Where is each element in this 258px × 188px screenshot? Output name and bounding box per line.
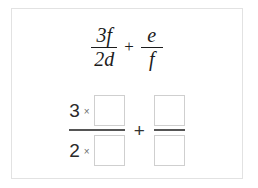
given-plus-operator: + [124, 37, 134, 58]
math-problem-card: 3f 2d + e f 3 × 2 × + [11, 8, 243, 179]
answer-fraction-1-denominator-coefficient: 2 [69, 141, 80, 160]
answer-fraction-1: 3 × 2 × [69, 93, 124, 167]
answer-fraction-1-denominator-row: 2 × [69, 133, 124, 167]
multiplication-icon: × [84, 107, 90, 117]
answer-fraction-1-numerator-input[interactable] [94, 95, 125, 126]
answer-fraction-1-denominator-input[interactable] [94, 135, 125, 166]
answer-fraction-2-denominator-row [154, 133, 185, 167]
answer-fraction-2-numerator-input[interactable] [154, 95, 185, 126]
given-fraction-2: e f [141, 25, 163, 70]
given-fraction-2-denominator: f [146, 49, 158, 70]
given-expression: 3f 2d + e f [12, 25, 242, 70]
given-fraction-1-numerator: 3f [93, 25, 115, 46]
answer-fraction-2-denominator-input[interactable] [154, 135, 185, 166]
answer-expression: 3 × 2 × + [12, 93, 242, 167]
answer-fraction-1-numerator-coefficient: 3 [69, 101, 80, 120]
given-fraction-1: 3f 2d [91, 25, 117, 70]
multiplication-icon: × [84, 147, 90, 157]
answer-fraction-2-bar [154, 129, 185, 131]
answer-fraction-2 [154, 93, 185, 167]
answer-fraction-1-bar [69, 129, 124, 131]
answer-fraction-2-numerator-row [154, 93, 185, 127]
given-fraction-2-numerator: e [144, 25, 159, 46]
answer-fraction-1-numerator-row: 3 × [69, 93, 124, 127]
answer-plus-operator: + [134, 121, 145, 140]
given-fraction-1-denominator: 2d [91, 49, 117, 70]
